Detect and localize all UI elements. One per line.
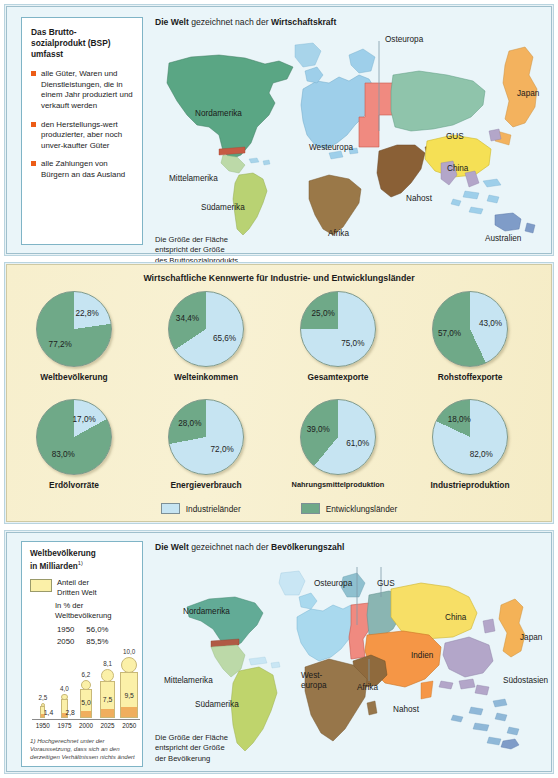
pie-cell-4: 17,0%83,0%Erdölvorräte [15, 399, 133, 490]
bottom-map-canvas: Die Welt gezeichnet nach der Bevölkerung… [6, 532, 552, 772]
top-map-title-strong2: Wirtschaftskraft [271, 17, 336, 27]
pie-value-entwicklungslaender: 57,0% [438, 329, 461, 338]
pie-label-0: Weltbevölkerung [15, 372, 133, 382]
figure-third-label-2050: 9,5 [114, 692, 144, 699]
bsp-item: alle Zahlungen von Bürgern an das Auslan… [31, 159, 134, 180]
map-label-nordamerika: Nordamerika [183, 607, 230, 617]
legend-swatch-industrielaender [161, 503, 180, 514]
pie-value-industrielaender: 17,0% [73, 415, 96, 424]
map-label-gus: GUS [377, 579, 395, 589]
top-map-canvas: Die Welt gezeichnet nach der Wirtschafts… [6, 6, 552, 254]
population-percent-table: 1950 56,0% 2050 85,5% [55, 623, 120, 650]
map-label-afrika: Afrika [328, 229, 349, 239]
legend-label-entwicklungslaender: Entwicklungsländer [326, 504, 397, 514]
map-label-nahost: Nahost [393, 705, 419, 715]
map-label-nordamerika: Nordamerika [195, 109, 242, 119]
map-label-suedostasien: Südostasien [503, 676, 548, 686]
region-groenland [295, 43, 321, 67]
map-label-china: China [445, 613, 466, 623]
population-legend-row: Anteil der Dritten Welt [30, 578, 136, 597]
footnote-marker: 1) [30, 737, 35, 744]
region-neuseeland [525, 223, 535, 233]
region-suedostasien [443, 637, 493, 677]
bottom-map-note: Die Größe der Fläche entspricht der Größ… [155, 733, 228, 764]
bottom-map-title-strong1: Die Welt [155, 542, 189, 552]
pie-label-1: Welteinkommen [147, 372, 265, 382]
footnote-text: Hochgerechnet unter der Voraussetzung, d… [30, 737, 135, 760]
table-row: 1950 56,0% [57, 625, 118, 635]
map-label-mittelamerika: Mittelamerika [169, 174, 218, 184]
top-map-title-strong1: Die Welt [155, 17, 189, 27]
map-label-suedamerika: Südamerika [195, 700, 239, 710]
pie-label-4: Erdölvorräte [15, 480, 133, 490]
bottom-section: Die Welt gezeichnet nach der Bevölkerung… [4, 530, 554, 774]
pie-label-3: Rohstoffexporte [411, 372, 529, 382]
bsp-item: den Herstellungs-wert produzierter, aber… [31, 120, 134, 152]
region-korea [489, 129, 501, 141]
map-label-westeuropa: West- europa [301, 671, 327, 690]
region-japan [499, 599, 525, 657]
pie-value-industrielaender: 72,0% [211, 445, 234, 454]
pie-cell-6: 61,0%39,0%Nahrungsmittelproduktion [279, 399, 397, 489]
map-label-suedamerika: Südamerika [201, 203, 245, 213]
bsp-definition-box: Das Brutto- sozialprodukt (BSP) umfasst … [21, 17, 143, 245]
top-map-svg [153, 31, 551, 246]
population-title-footnote-marker: 1) [78, 560, 83, 566]
region-britische-inseln [305, 67, 323, 83]
square-bullet-icon [31, 122, 36, 127]
region-groenland [279, 571, 305, 595]
population-subheader: In % der Weltbevölkerung [55, 601, 136, 620]
pie-value-industrielaender: 22,8% [76, 309, 99, 318]
pie-section-title: Wirtschaftliche Kennwerte für Industrie-… [7, 273, 551, 283]
pie-value-entwicklungslaender: 28,0% [178, 419, 201, 428]
bottom-map-title: Die Welt gezeichnet nach der Bevölkerung… [155, 542, 344, 552]
bottom-map-title-strong2: Bevölkerungszahl [271, 542, 345, 552]
pie-label-7: Industrieproduktion [411, 480, 529, 490]
pie-value-entwicklungslaender: 25,0% [312, 309, 335, 318]
pie-value-industrielaender: 61,0% [346, 439, 369, 448]
map-label-gus: GUS [446, 132, 464, 142]
top-map-title: Die Welt gezeichnet nach der Wirtschafts… [155, 17, 336, 27]
map-label-japan: Japan [520, 633, 542, 643]
pie-chart-6: 61,0%39,0% [300, 399, 376, 475]
top-section: Die Welt gezeichnet nach der Wirtschafts… [4, 4, 554, 256]
pie-value-industrielaender: 65,6% [213, 334, 236, 343]
region-australien [495, 213, 521, 231]
map-label-japan: Japan [517, 89, 539, 99]
pie-canvas: Wirtschaftliche Kennwerte für Industrie-… [6, 264, 552, 522]
region-nahost-top [377, 145, 425, 197]
population-box: Weltbevölkerung in Milliarden1) Anteil d… [21, 541, 143, 767]
region-karibik [249, 158, 270, 165]
region-madagaskar [367, 701, 377, 715]
population-figure-2050 [118, 657, 141, 718]
region-suedostasien-inseln [439, 679, 489, 695]
pie-chart-1: 65,6%34,4% [168, 291, 244, 367]
figure-head [121, 657, 137, 673]
region-britische-inseln [299, 593, 317, 609]
bsp-item: alle Güter, Waren und Dienstleistungen, … [31, 69, 134, 111]
row-pct: 56,0% [86, 625, 118, 635]
pie-value-entwicklungslaender: 18,0% [448, 415, 471, 424]
pie-cell-2: 75,0%25,0%Gesamtexporte [279, 291, 397, 382]
pie-value-industrielaender: 82,0% [470, 450, 493, 459]
pie-cell-0: 22,8%77,2%Weltbevölkerung [15, 291, 133, 382]
population-title-text: Weltbevölkerung in Milliarden [30, 549, 96, 570]
pie-chart-0: 22,8%77,2% [36, 291, 112, 367]
map-label-australien: Australien [485, 234, 521, 244]
map-label-osteuropa: Osteuropa [385, 35, 423, 45]
bsp-item-text: den Herstellungs-wert produzierter, aber… [41, 120, 134, 152]
map-label-china: China [447, 164, 468, 174]
map-label-indien: Indien [411, 651, 433, 661]
top-map-title-mid: gezeichnet nach der [189, 17, 271, 27]
region-japan [503, 47, 537, 127]
figure-third-world-share [121, 707, 138, 717]
pie-cell-7: 82,0%18,0%Industrieproduktion [411, 399, 529, 490]
population-figure-chart: 2,51,419504,02,819756,25,020008,17,52025… [32, 653, 140, 729]
region-australien [501, 739, 519, 749]
legend-swatch-entwicklungslaender [301, 503, 320, 514]
region-karibik [249, 657, 280, 668]
map-label-osteuropa: Osteuropa [314, 579, 352, 589]
third-world-swatch [30, 579, 52, 592]
region-mittelamerika [221, 155, 245, 173]
figure-total-label-1950: 2,5 [25, 694, 61, 701]
